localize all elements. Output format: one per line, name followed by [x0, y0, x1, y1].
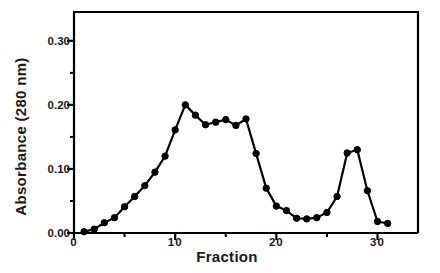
data-point	[111, 214, 117, 220]
x-tick-label: 30	[363, 236, 393, 248]
data-point	[324, 209, 330, 215]
chart-figure: Absorbance (280 nm) 0.000.100.200.30 010…	[0, 0, 440, 273]
data-point	[374, 218, 380, 224]
data-point	[344, 150, 350, 156]
data-point	[101, 220, 107, 226]
data-point	[364, 188, 370, 194]
data-point	[182, 102, 188, 108]
tick-marks	[67, 41, 378, 240]
x-axis-title: Fraction	[74, 248, 380, 265]
data-point	[152, 169, 158, 175]
data-point	[273, 203, 279, 209]
data-point	[253, 150, 259, 156]
data-point	[384, 220, 390, 226]
data-point	[263, 185, 269, 191]
data-point	[304, 216, 310, 222]
data-point	[354, 147, 360, 153]
plot-canvas	[0, 0, 440, 273]
data-point	[243, 116, 249, 122]
data-point	[132, 193, 138, 199]
data-point	[142, 182, 148, 188]
x-tick-label: 0	[59, 236, 89, 248]
data-point	[172, 127, 178, 133]
data-point	[233, 122, 239, 128]
data-point	[192, 112, 198, 118]
data-point	[121, 204, 127, 210]
data-point	[162, 153, 168, 159]
data-point	[293, 215, 299, 221]
data-point	[283, 207, 289, 213]
data-point	[334, 193, 340, 199]
x-tick-label: 10	[160, 236, 190, 248]
data-point	[212, 119, 218, 125]
data-point	[314, 214, 320, 220]
data-point	[202, 122, 208, 128]
x-tick-label: 20	[261, 236, 291, 248]
data-point	[81, 229, 87, 235]
data-point	[91, 226, 97, 232]
data-point	[223, 116, 229, 122]
